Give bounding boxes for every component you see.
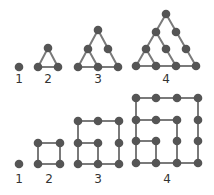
square-figure-1: 1 (15, 160, 24, 186)
dot (152, 137, 161, 146)
dot (152, 159, 161, 168)
dot (94, 63, 103, 72)
dot (34, 139, 43, 148)
dot (74, 117, 83, 126)
dot (15, 63, 24, 72)
dot (194, 116, 203, 125)
dot (34, 63, 43, 72)
square-label: 3 (94, 172, 102, 186)
dot (162, 10, 171, 19)
dot (132, 94, 141, 103)
triangular-numbers-row: 1234 (15, 10, 201, 86)
dot (115, 160, 124, 169)
dot (94, 160, 103, 169)
dot (152, 116, 161, 125)
square-label: 2 (45, 172, 53, 186)
dot (172, 62, 181, 71)
dot (194, 137, 203, 146)
dot (56, 160, 65, 169)
dot (173, 116, 182, 125)
dot (152, 94, 161, 103)
dot (162, 45, 171, 54)
dot (172, 28, 181, 37)
square-label: 4 (163, 172, 171, 186)
dot (94, 139, 103, 148)
dot (115, 139, 124, 148)
dot (132, 159, 141, 168)
dot (132, 62, 141, 71)
dot (114, 63, 123, 72)
dot (84, 45, 93, 54)
dot (54, 63, 63, 72)
dot (104, 45, 113, 54)
triangle-label: 1 (15, 72, 23, 86)
square-numbers-row: 1234 (15, 94, 203, 186)
dot (173, 94, 182, 103)
dot (74, 139, 83, 148)
triangle-label: 4 (162, 72, 170, 86)
dot (74, 160, 83, 169)
dot (132, 137, 141, 146)
dot (152, 62, 161, 71)
square-figure-3: 3 (74, 117, 124, 186)
dot (94, 26, 103, 35)
figurate-numbers-diagram: 1234 1234 (0, 0, 214, 195)
dot (74, 63, 83, 72)
triangle-figure-3: 3 (74, 26, 123, 86)
dot (194, 159, 203, 168)
triangle-label: 2 (44, 72, 52, 86)
dot (132, 116, 141, 125)
dot (182, 45, 191, 54)
dot (115, 117, 124, 126)
triangle-figure-1: 1 (15, 63, 24, 86)
dot (173, 137, 182, 146)
square-figure-2: 2 (34, 139, 65, 186)
square-figure-4: 4 (132, 94, 203, 186)
dot (15, 160, 24, 169)
dot (56, 139, 65, 148)
dot (192, 62, 201, 71)
triangle-label: 3 (94, 72, 102, 86)
dot (34, 160, 43, 169)
dot (152, 28, 161, 37)
dot (173, 159, 182, 168)
dot (194, 94, 203, 103)
square-label: 1 (15, 172, 23, 186)
triangle-figure-2: 2 (34, 44, 63, 86)
triangle-figure-4: 4 (132, 10, 201, 86)
dot (94, 117, 103, 126)
dot (44, 44, 53, 53)
dot (142, 45, 151, 54)
